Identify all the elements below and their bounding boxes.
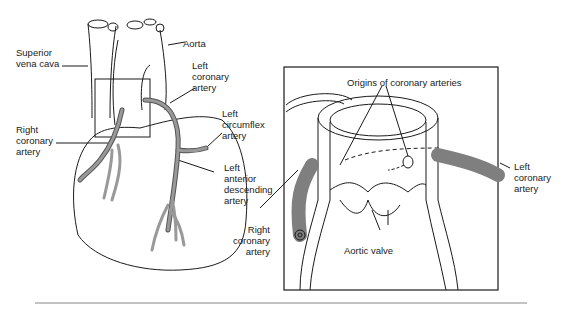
left-coronary-artery-detail: [438, 155, 498, 175]
heart-diagram: [0, 0, 566, 310]
label-right-coronary-artery-detail: Right coronary artery: [226, 224, 270, 257]
label-left-anterior-descending-artery: Left anterior descending artery: [224, 162, 273, 206]
label-right-coronary-artery: Right coronary artery: [16, 124, 53, 157]
label-aorta: Aorta: [183, 38, 206, 49]
label-superior-vena-cava: Superior vena cava: [16, 47, 59, 69]
label-left-coronary-artery: Left coronary artery: [192, 60, 229, 93]
superior-vena-cava: [88, 24, 116, 118]
label-left-circumflex-artery: Left circumflex artery: [222, 108, 265, 141]
right-coronary-artery-detail: [299, 165, 313, 235]
heart-outline: [74, 117, 247, 271]
label-left-coronary-artery-detail: Left coronary artery: [514, 161, 551, 194]
label-aortic-valve: Aortic valve: [344, 245, 393, 256]
label-origins-of-coronary-arteries: Origins of coronary arteries: [347, 77, 462, 88]
